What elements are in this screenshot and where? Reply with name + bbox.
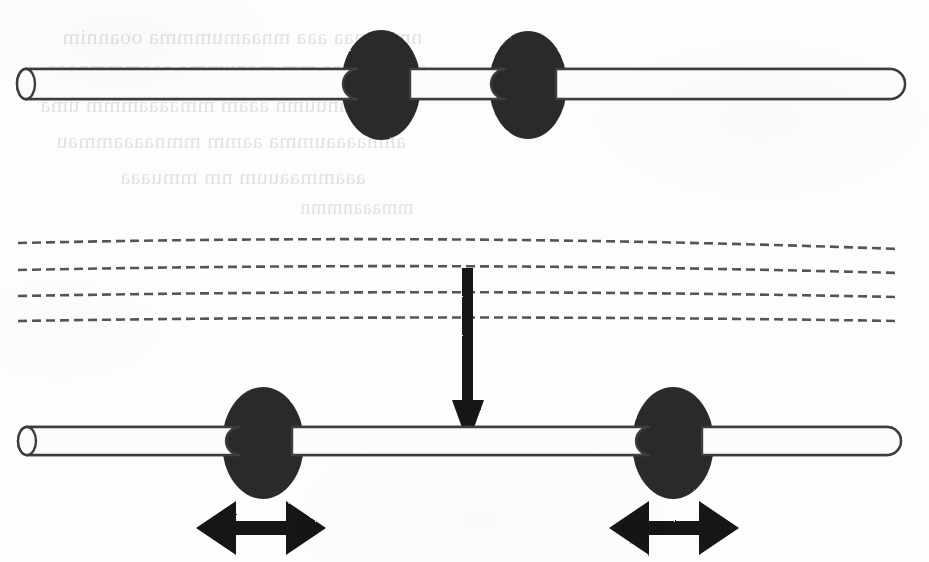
rod-bottom-segment-middle [292,427,650,455]
rod-bottom-bore-overlay [18,427,901,455]
dashed-line-2 [18,266,898,273]
rod-bottom-left-end-cap-overlay [18,427,36,455]
motion-arrow-right-head-east [699,501,739,555]
double-headed-arrow-left [196,501,326,555]
motion-arrow-right-shaft [645,521,703,535]
rod-top-segment-middle [410,69,506,99]
motion-arrow-right-head-west [609,501,649,555]
dashed-line-1 [18,239,898,249]
dashed-line-3 [18,292,898,297]
transition-arrow-shaft [462,268,473,404]
motion-arrow-left-head-east [286,501,326,555]
double-headed-arrow-right [609,501,739,555]
dashed-line-4 [18,318,898,322]
motion-arrow-left-head-west [196,501,236,555]
dashed-field-lines [18,239,898,321]
rod-bottom-segment-right [702,427,901,455]
downward-transition-arrow [452,268,484,444]
motion-arrow-left-shaft [232,521,290,535]
rod-top-left-end-cap-overlay [17,69,35,99]
rod-bottom-segment-left [27,427,240,455]
scanned-figure: nmanmaa aaa mnaamummma ooannim aoammmaa … [0,0,929,562]
rod-top-segment-right [556,69,905,99]
diagram-canvas [0,0,929,562]
top-rod-assembly [17,30,905,140]
rod-top-segment-left [26,69,358,99]
rod-top-bore-overlay [17,69,905,99]
